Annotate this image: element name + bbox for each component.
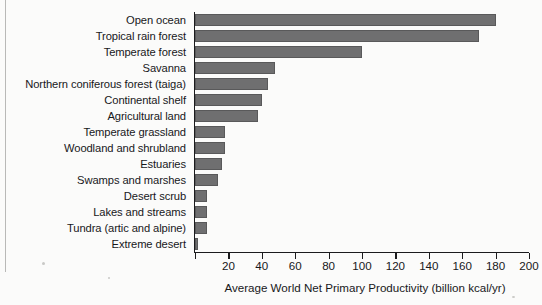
bar — [195, 30, 479, 42]
x-tick-label: 200 — [519, 259, 538, 273]
category-axis-labels: Open oceanTropical rain forestTemperate … — [0, 12, 190, 252]
category-label: Continental shelf — [0, 94, 186, 106]
category-label: Woodland and shrubland — [0, 142, 186, 154]
bar — [195, 62, 275, 74]
category-label: Lakes and streams — [0, 206, 186, 218]
bar — [195, 94, 262, 106]
bar — [195, 110, 258, 122]
bar — [195, 158, 222, 170]
x-tick-label: 120 — [386, 259, 405, 273]
bar-chart: Open oceanTropical rain forestTemperate … — [0, 0, 542, 305]
bar — [195, 46, 362, 58]
bar — [195, 174, 218, 186]
x-tick-label: 80 — [322, 259, 335, 273]
bar — [195, 206, 207, 218]
category-label: Temperate grassland — [0, 126, 186, 138]
category-label: Savanna — [0, 62, 186, 74]
category-label: Desert scrub — [0, 190, 186, 202]
bar — [195, 238, 198, 250]
bar — [195, 14, 496, 26]
bar — [195, 190, 207, 202]
bar — [195, 222, 207, 234]
category-label: Tropical rain forest — [0, 30, 186, 42]
category-label: Estuaries — [0, 158, 186, 170]
bar — [195, 78, 268, 90]
category-label: Northern coniferous forest (taiga) — [0, 78, 186, 90]
x-tick-label: 100 — [352, 259, 371, 273]
category-label: Extreme desert — [0, 238, 186, 250]
category-label: Swamps and marshes — [0, 174, 186, 186]
category-label: Open ocean — [0, 14, 186, 26]
x-tick-label: 60 — [289, 259, 302, 273]
x-tick-label: 20 — [222, 259, 235, 273]
category-label: Agricultural land — [0, 110, 186, 122]
category-label: Tundra (artic and alpine) — [0, 222, 186, 234]
bar — [195, 142, 225, 154]
x-tick-label: 40 — [255, 259, 268, 273]
x-tick-label: 180 — [486, 259, 505, 273]
x-tick-label: 140 — [419, 259, 438, 273]
x-tick-mark — [195, 253, 196, 259]
x-axis-ticks: 20406080100120140160180200 — [195, 253, 535, 283]
plot-area — [195, 12, 529, 252]
x-tick-label: 160 — [453, 259, 472, 273]
category-label: Temperate forest — [0, 46, 186, 58]
bar — [195, 126, 225, 138]
x-axis-title: Average World Net Primary Productivity (… — [195, 281, 535, 295]
